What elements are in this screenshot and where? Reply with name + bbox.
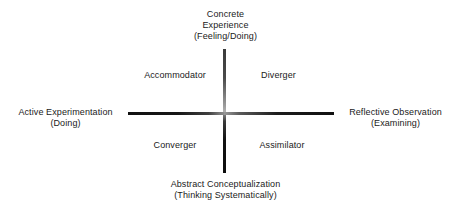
axis-label-active-experimentation-line1: Active Experimentation bbox=[6, 107, 125, 118]
vertical-axis-upper-segment bbox=[223, 49, 226, 113]
learning-styles-quadrant-diagram: Concrete Experience (Feeling/Doing) Abst… bbox=[0, 0, 456, 216]
axis-label-active-experimentation-line2: (Doing) bbox=[6, 118, 125, 129]
axis-label-concrete-experience-line1: Concrete bbox=[163, 9, 288, 20]
axis-label-abstract-conceptualization-line1: Abstract Conceptualization bbox=[144, 179, 307, 190]
axis-label-concrete-experience-line2: Experience bbox=[163, 20, 288, 31]
horizontal-axis-left-segment bbox=[128, 112, 224, 115]
axis-label-reflective-observation: Reflective Observation (Examining) bbox=[338, 107, 453, 129]
axis-label-reflective-observation-line2: (Examining) bbox=[338, 118, 453, 129]
quadrant-label-assimilator: Assimilator bbox=[245, 140, 319, 151]
axis-label-concrete-experience: Concrete Experience (Feeling/Doing) bbox=[163, 9, 288, 42]
quadrant-label-accommodator: Accommodator bbox=[133, 70, 217, 81]
axis-label-abstract-conceptualization: Abstract Conceptualization (Thinking Sys… bbox=[144, 179, 307, 201]
vertical-axis-lower-segment bbox=[223, 113, 226, 173]
axis-label-concrete-experience-line3: (Feeling/Doing) bbox=[163, 31, 288, 42]
horizontal-axis-right-segment bbox=[224, 112, 334, 115]
axis-label-reflective-observation-line1: Reflective Observation bbox=[338, 107, 453, 118]
quadrant-label-diverger: Diverger bbox=[246, 70, 311, 81]
axis-label-abstract-conceptualization-line2: (Thinking Systematically) bbox=[144, 190, 307, 201]
axis-label-active-experimentation: Active Experimentation (Doing) bbox=[6, 107, 125, 129]
quadrant-label-converger: Converger bbox=[139, 140, 211, 151]
